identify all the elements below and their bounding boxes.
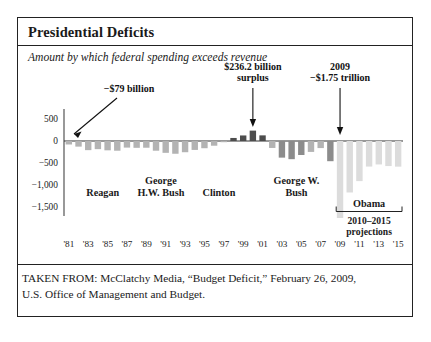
era-label: Bush	[285, 187, 307, 198]
bar	[230, 138, 236, 141]
bar	[395, 141, 401, 167]
bar	[376, 141, 382, 164]
x-tick-label: '09	[335, 239, 346, 249]
bar	[124, 141, 130, 148]
bar	[192, 141, 198, 150]
bar	[211, 141, 217, 146]
bar	[85, 141, 91, 150]
bar	[366, 141, 372, 167]
bar	[347, 141, 353, 192]
annotation-first-bar-label: −$79 billion	[104, 83, 155, 94]
caption-line-1: TAKEN FROM: McClatchy Media, “Budget Def…	[22, 271, 414, 287]
bar	[298, 141, 304, 155]
page-title: Presidential Deficits	[28, 24, 154, 41]
era-label: George W.	[274, 175, 320, 186]
y-tick-label: −500	[39, 158, 59, 168]
x-tick-label: '93	[180, 239, 191, 249]
y-tick-label: −1,000	[32, 180, 59, 190]
annotation-surplus-label-1: $236.2 billion	[224, 61, 282, 72]
caption-line-2: U.S. Office of Management and Budget.	[22, 287, 414, 303]
era-label: Reagan	[86, 187, 119, 198]
x-tick-label: '13	[373, 239, 384, 249]
x-tick-label: '83	[83, 239, 94, 249]
bars-group	[66, 131, 402, 218]
bar	[95, 141, 101, 149]
bar	[163, 141, 169, 153]
x-tick-label: '87	[122, 239, 133, 249]
bar	[308, 141, 314, 152]
era-label: George	[145, 175, 177, 186]
x-tick-label: '91	[160, 239, 171, 249]
x-tick-label: '99	[238, 239, 249, 249]
y-tick-label: −1,500	[32, 202, 59, 212]
bar	[250, 131, 256, 141]
bar	[385, 141, 391, 166]
bar	[317, 141, 323, 148]
bar	[104, 141, 110, 150]
era-label: H.W. Bush	[137, 187, 184, 198]
bar	[182, 141, 188, 152]
bar	[279, 141, 285, 158]
x-tick-label: '95	[199, 239, 210, 249]
bar	[75, 141, 81, 147]
figure-root: Presidential Deficits Amount by which fe…	[0, 0, 431, 342]
annotation-first-bar-arrow	[74, 98, 117, 134]
annotation-surplus-arrowhead	[250, 119, 256, 127]
x-tick-label: '03	[277, 239, 288, 249]
era-label: Clinton	[203, 187, 236, 198]
deficit-bar-chart: 5000−500−1,000−1,500'81'83'85'87'89'91'9…	[17, 64, 413, 262]
source-caption: TAKEN FROM: McClatchy Media, “Budget Def…	[22, 271, 414, 302]
x-tick-label: '05	[296, 239, 307, 249]
x-tick-label: '01	[257, 239, 268, 249]
bar	[337, 141, 343, 218]
annotation-surplus-label-2: surplus	[237, 72, 269, 83]
bar	[269, 141, 275, 148]
bar	[66, 141, 72, 144]
x-tick-label: '85	[102, 239, 113, 249]
bar	[172, 141, 178, 154]
annotation-2009-label-2: −$1.75 trillion	[310, 72, 371, 83]
title-divider	[18, 45, 412, 46]
bar	[259, 135, 265, 141]
bar	[133, 141, 139, 148]
y-tick-label: 0	[53, 136, 58, 146]
bar	[240, 135, 246, 141]
x-tick-label: '81	[63, 239, 74, 249]
x-tick-label: '15	[393, 239, 404, 249]
x-tick-label: '89	[141, 239, 152, 249]
caption-divider	[18, 264, 412, 265]
annotation-2009-arrowhead	[337, 127, 343, 135]
projection-label: 2010–2015	[348, 215, 391, 226]
bar	[143, 141, 149, 148]
annotation-2009-label-1: 2009	[330, 61, 350, 72]
bar	[356, 141, 362, 181]
projection-label: projections	[346, 226, 392, 237]
bar	[288, 141, 294, 159]
bar	[221, 141, 227, 142]
bar	[327, 141, 333, 161]
bar	[114, 141, 120, 151]
x-tick-label: '11	[354, 239, 365, 249]
x-tick-label: '97	[218, 239, 229, 249]
x-tick-label: '07	[315, 239, 326, 249]
bar	[201, 141, 207, 148]
y-tick-label: 500	[44, 114, 58, 124]
era-label: Obama	[353, 198, 385, 209]
bar	[153, 141, 159, 151]
